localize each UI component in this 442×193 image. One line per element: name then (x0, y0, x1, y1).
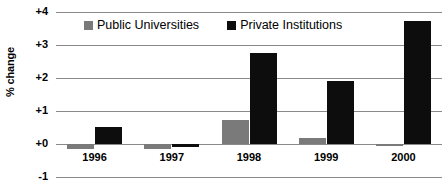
y-tick-label: +2 (14, 71, 48, 83)
y-tick-label: -1 (14, 170, 48, 182)
legend-label: Public Universities (97, 18, 199, 32)
bar-private-1996[interactable] (95, 127, 122, 144)
y-axis-tick-labels: +4+3+2+1+0-1 (14, 0, 54, 193)
legend-swatch-private-icon (227, 21, 236, 30)
y-tick-label: +1 (14, 104, 48, 116)
bar-public-1998[interactable] (222, 120, 249, 144)
bar-public-1997[interactable] (144, 144, 171, 149)
bar-private-2000[interactable] (404, 21, 431, 144)
x-axis-label-1998: 1998 (210, 151, 287, 163)
x-axis-label-1999: 1999 (288, 151, 365, 163)
bar-public-2000[interactable] (376, 144, 403, 146)
bar-private-1999[interactable] (327, 81, 354, 144)
y-tick-label: +4 (14, 5, 48, 17)
bar-public-1999[interactable] (299, 138, 326, 144)
gridline-+4 (56, 12, 442, 13)
x-axis-label-1996: 1996 (56, 151, 133, 163)
y-tick-label: +0 (14, 137, 48, 149)
chart-legend: Public UniversitiesPrivate Institutions (84, 18, 342, 32)
bar-chart: % change +4+3+2+1+0-1 199619971998199920… (0, 0, 442, 193)
gridline--1 (56, 177, 442, 178)
y-tick-label: +3 (14, 38, 48, 50)
bar-private-1997[interactable] (172, 144, 199, 147)
x-axis-label-1997: 1997 (133, 151, 210, 163)
x-axis-label-2000: 2000 (365, 151, 442, 163)
bar-private-1998[interactable] (250, 53, 277, 144)
legend-swatch-public-icon (84, 21, 93, 30)
bar-public-1996[interactable] (67, 144, 94, 149)
legend-label: Private Institutions (240, 18, 342, 32)
legend-item-public[interactable]: Public Universities (84, 18, 199, 32)
gridline-+3 (56, 45, 442, 46)
legend-item-private[interactable]: Private Institutions (227, 18, 342, 32)
